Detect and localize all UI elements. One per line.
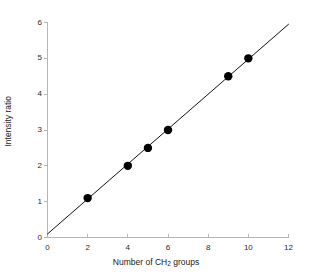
data-point: [224, 72, 232, 80]
x-tick-label: 10: [244, 244, 253, 252]
data-point: [164, 126, 172, 134]
x-tick-label: 12: [284, 244, 293, 252]
data-point: [144, 144, 152, 152]
x-axis-title-prefix: Number of CH: [113, 257, 167, 267]
x-tick-label: 6: [166, 244, 170, 252]
y-tick-label: 1: [26, 198, 42, 206]
chart-figure: 0123456 024681012 Intensity ratio Number…: [0, 0, 312, 277]
y-tick-label: 4: [26, 90, 42, 98]
y-tick-label: 0: [26, 234, 42, 242]
data-point: [124, 162, 132, 170]
x-axis-title: Number of CH2 groups: [0, 258, 312, 268]
x-tick-label: 2: [85, 244, 89, 252]
plot-canvas: [0, 0, 312, 277]
x-axis-title-suffix: groups: [171, 257, 199, 267]
data-point: [244, 54, 252, 62]
y-tick-label: 3: [26, 126, 42, 134]
y-axis-title: Intensity ratio: [4, 96, 13, 147]
x-tick-label: 4: [126, 244, 130, 252]
y-tick-label: 2: [26, 162, 42, 170]
y-tick-label: 6: [26, 19, 42, 27]
y-tick-label: 5: [26, 54, 42, 62]
x-tick-label: 0: [45, 244, 49, 252]
data-point: [83, 194, 91, 202]
x-tick-label: 8: [206, 244, 210, 252]
